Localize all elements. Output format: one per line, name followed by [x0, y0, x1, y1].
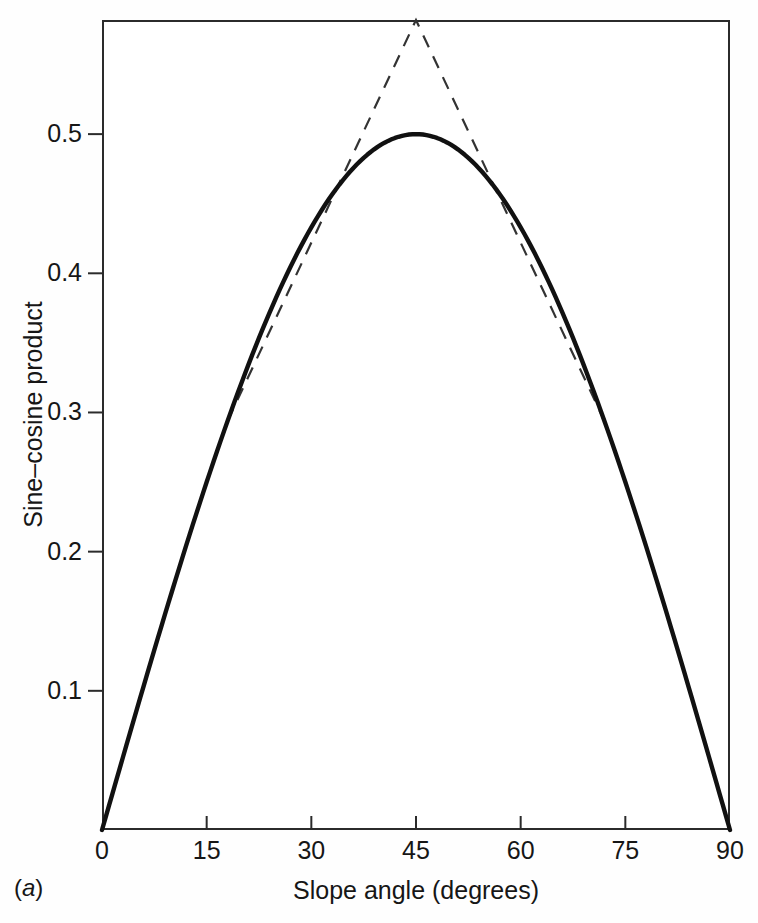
- ytick-label-0.5: 0.5: [12, 121, 82, 146]
- panel-label-prefix: (: [14, 874, 22, 901]
- figure-root: 0.5 0.4 0.3 0.2 0.1 0 15 30 45 60 75 90 …: [0, 0, 758, 923]
- y-axis-ticks: [88, 134, 102, 691]
- xtick-label-45: 45: [386, 838, 446, 863]
- xtick-label-60: 60: [491, 838, 551, 863]
- xtick-label-90: 90: [700, 838, 758, 863]
- xtick-label-15: 15: [177, 838, 237, 863]
- x-axis-title: Slope angle (degrees): [102, 876, 730, 905]
- xtick-label-0: 0: [72, 838, 132, 863]
- panel-label-suffix: ): [35, 874, 43, 901]
- panel-label-letter: a: [22, 874, 35, 901]
- xtick-label-75: 75: [595, 838, 655, 863]
- ytick-label-0.1: 0.1: [12, 678, 82, 703]
- plot-frame: [102, 20, 730, 830]
- xtick-label-30: 30: [281, 838, 341, 863]
- panel-label: (a): [14, 874, 43, 902]
- y-axis-title: Sine–cosine product: [19, 265, 48, 565]
